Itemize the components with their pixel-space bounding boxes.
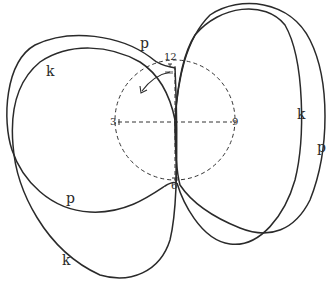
label-p-top: p xyxy=(140,36,149,50)
label-6: 6 xyxy=(171,181,177,191)
curve-p-left-lobe xyxy=(7,36,177,213)
label-12: 12 xyxy=(164,52,177,62)
label-k-right: k xyxy=(297,107,305,121)
label-p-bottom: p xyxy=(66,191,75,205)
diagram-svg xyxy=(0,0,330,281)
label-9: 9 xyxy=(232,117,238,127)
label-k-bottom: k xyxy=(62,253,70,267)
curve-k-left-lobe xyxy=(12,48,176,278)
label-k-top: k xyxy=(46,64,54,78)
label-p-right: p xyxy=(317,140,326,154)
loop-diagram: 12 3 6 9 p k p k k p xyxy=(0,0,330,281)
label-3: 3 xyxy=(110,117,116,127)
rotation-arrow xyxy=(142,72,170,91)
